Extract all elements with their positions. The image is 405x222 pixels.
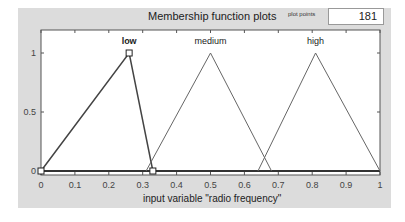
x-tick-label: 0.2 (103, 180, 116, 190)
mf-label-medium[interactable]: medium (194, 36, 226, 46)
x-tick-label: 0.8 (306, 180, 319, 190)
mf-handle[interactable] (126, 50, 132, 56)
y-tick-label: 0 (31, 166, 36, 176)
x-tick-label: 0.4 (170, 180, 183, 190)
x-tick-label: 1 (377, 180, 382, 190)
x-tick-label: 0.7 (272, 180, 285, 190)
mf-label-low[interactable]: low (122, 36, 138, 46)
x-tick-label: 0 (38, 180, 43, 190)
x-tick-label: 0.9 (340, 180, 353, 190)
x-tick-label: 0.5 (204, 180, 217, 190)
y-tick-label: 1 (31, 48, 36, 58)
mf-label-high[interactable]: high (307, 36, 324, 46)
x-tick-label: 0.1 (69, 180, 82, 190)
mf-handle[interactable] (38, 168, 44, 174)
x-axis-label: input variable "radio frequency" (143, 193, 281, 204)
x-tick-label: 0.6 (238, 180, 251, 190)
x-tick-label: 0.3 (136, 180, 149, 190)
membership-chart[interactable]: 00.10.20.30.40.50.60.70.80.9100.51lowmed… (0, 0, 405, 222)
y-tick-label: 0.5 (23, 107, 36, 117)
mf-handle[interactable] (150, 168, 156, 174)
